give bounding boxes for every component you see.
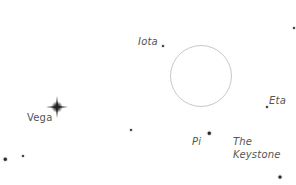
label-iota: Iota <box>138 36 158 48</box>
bottom-right-star[interactable] <box>279 176 282 179</box>
bottom-left-star-1[interactable] <box>4 158 7 161</box>
iota-star[interactable] <box>162 45 164 47</box>
label-keystone-line1: The <box>233 136 252 148</box>
label-eta: Eta <box>269 95 286 107</box>
label-pi: Pi <box>192 136 201 148</box>
top-right-star[interactable] <box>293 27 295 29</box>
bottom-left-star-2[interactable] <box>22 155 24 157</box>
pi-star[interactable] <box>208 132 211 135</box>
label-keystone-line2: Keystone <box>233 149 281 161</box>
label-vega: Vega <box>27 112 53 124</box>
highlight-circle <box>170 45 232 107</box>
eta-star[interactable] <box>266 106 268 108</box>
faint-star-center[interactable] <box>130 129 132 131</box>
star-chart: Iota Vega Eta Pi The Keystone <box>0 0 296 185</box>
